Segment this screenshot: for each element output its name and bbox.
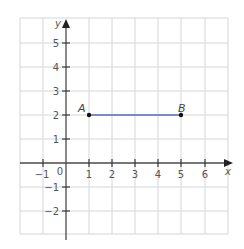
y-tick-label: 2: [53, 110, 59, 121]
y-tick-label: 1: [53, 134, 59, 145]
origin-label: 0: [57, 166, 63, 177]
x-tick-label: −1: [35, 169, 50, 180]
point-a: [87, 113, 91, 117]
x-tick-label: 1: [86, 169, 92, 180]
y-tick-label: 4: [53, 62, 59, 73]
x-tick-label: 5: [178, 169, 184, 180]
x-tick-label: 6: [202, 169, 208, 180]
x-tick-labels: −1 1 2 3 4 5 6 0: [35, 166, 209, 180]
point-a-label: A: [77, 102, 86, 115]
coordinate-plane: x y −1 1 2 3 4 5 6 0 5 4 3: [0, 0, 244, 249]
y-tick-label: −2: [44, 206, 59, 217]
y-tick-label: 5: [53, 38, 59, 49]
y-tick-label: 3: [53, 86, 59, 97]
grid-horizontal-lines: [20, 18, 228, 234]
x-tick-label: 3: [132, 169, 138, 180]
grid-vertical-lines: [20, 18, 228, 234]
y-axis-label: y: [54, 18, 62, 29]
point-b-label: B: [178, 102, 186, 115]
y-tick-label: −1: [44, 182, 59, 193]
y-tick-labels: 5 4 3 2 1 −1 −2: [44, 38, 59, 217]
x-tick-label: 4: [155, 169, 161, 180]
y-axis-arrow-icon: [62, 19, 70, 28]
x-tick-label: 2: [109, 169, 115, 180]
x-axis-label: x: [224, 166, 231, 177]
